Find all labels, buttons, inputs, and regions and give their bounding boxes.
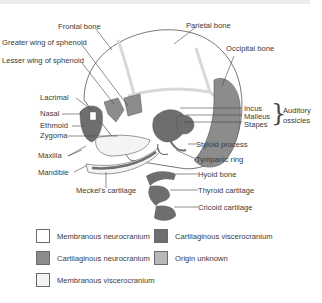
label-auditory: Auditory — [283, 106, 311, 115]
legend-item-membranous-neurocranium: Membranous neurocranium — [36, 229, 150, 243]
label-ethmoid: Ethmoid — [40, 121, 68, 130]
lacrimal — [90, 112, 96, 120]
label-zygoma: Zygoma — [40, 131, 67, 140]
swatch-cartilaginous-viscerocranium — [154, 229, 168, 243]
label-cricoid-cartilage: Cricoid cartilage — [198, 203, 252, 212]
label-stapes: Stapes — [244, 120, 268, 129]
swatch-cartilaginous-neurocranium — [36, 251, 50, 265]
legend-item-cartilaginous-viscerocranium: Cartilaginous viscerocranium — [154, 229, 273, 243]
label-greater-wing-sphenoid: Greater wing of sphenoid — [2, 38, 87, 47]
label-thyroid-cartilage: Thyroid cartilage — [198, 186, 254, 195]
nasal-ethmoid — [80, 106, 103, 142]
label-parietal-bone: Parietal bone — [186, 21, 231, 30]
hyoid-bone-shape — [146, 171, 176, 186]
swatch-origin-unknown — [154, 251, 168, 265]
swatch-membranous-neurocranium — [36, 229, 50, 243]
label-lesser-wing-sphenoid: Lesser wing of sphenoid — [2, 56, 84, 65]
label-hyoid-bone: Hyoid bone — [198, 170, 236, 179]
label-lacrimal: Lacrimal — [40, 93, 69, 102]
legend-item-origin-unknown: Origin unknown — [154, 251, 228, 265]
label-styloid-process: Styloid process — [196, 140, 248, 149]
label-mandible: Mandible — [38, 168, 69, 177]
swatch-membranous-viscerocranium — [36, 273, 50, 287]
label-nasal: Nasal — [40, 109, 59, 118]
thyroid-cartilage-shape — [148, 185, 170, 206]
label-occipital-bone: Occipital bone — [226, 44, 274, 53]
label-meckels-cartilage: Meckel's cartilage — [76, 186, 136, 195]
cricoid-cartilage-shape — [154, 205, 176, 220]
label-tympanic-ring: Tympanic ring — [196, 155, 243, 164]
label-maxilla: Maxilla — [38, 151, 62, 160]
legend-item-cartilaginous-neurocranium: Cartilaginous neurocranium — [36, 251, 150, 265]
label-ossicles: ossicles — [283, 116, 310, 125]
legend-item-membranous-viscerocranium: Membranous viscerocranium — [36, 273, 155, 287]
middle-ear — [176, 115, 194, 134]
label-frontal-bone: Frontal bone — [58, 22, 101, 31]
